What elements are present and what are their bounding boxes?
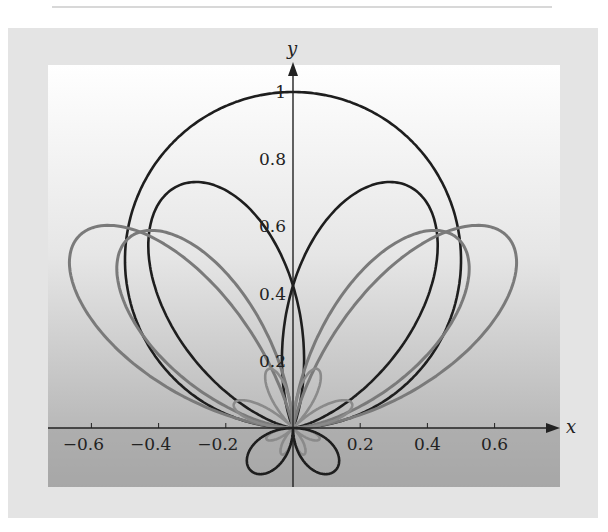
y-tick-label: 0.6	[259, 216, 286, 236]
x-tick-label: −0.4	[130, 434, 171, 454]
x-tick-label: −0.6	[63, 434, 104, 454]
x-tick-label: 0.6	[481, 434, 508, 454]
x-axis-label: x	[566, 416, 576, 437]
y-axis-label: y	[286, 38, 298, 59]
y-tick-label: 0.2	[259, 351, 286, 371]
y-tick-label: 0.4	[259, 284, 286, 304]
y-tick-label: 0.8	[259, 149, 286, 169]
x-tick-label: −0.2	[197, 434, 238, 454]
x-tick-label: 0.4	[414, 434, 441, 454]
y-tick-label: 1	[275, 82, 286, 102]
x-tick-label: 0.2	[347, 434, 374, 454]
polar-pattern-chart: −0.6−0.4−0.20.20.40.60.20.40.60.81 x y	[0, 0, 608, 532]
